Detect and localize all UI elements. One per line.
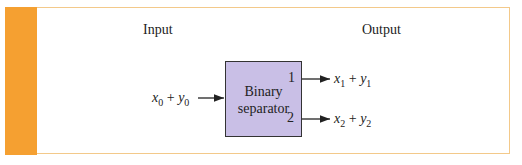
output2-expression: x2 + y2 <box>334 111 371 129</box>
output1-expression: x1 + y1 <box>334 71 371 89</box>
input-expression: x0 + y0 <box>152 90 189 108</box>
arrows <box>0 0 522 165</box>
